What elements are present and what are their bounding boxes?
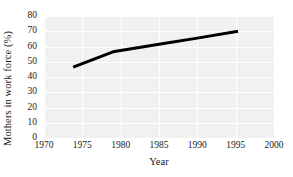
y-axis-tick-label: 70 xyxy=(28,27,38,37)
y-axis-tick-label: 20 xyxy=(28,103,38,113)
x-axis-tick-label: 1995 xyxy=(226,140,245,151)
plot-area xyxy=(44,16,274,138)
y-axis-tick-label: 10 xyxy=(28,118,38,128)
data-series-line xyxy=(44,16,274,138)
line-series-mothers-in-work-force xyxy=(73,31,238,67)
chart-figure: Mothers in work force (%) 01020304050607… xyxy=(0,0,293,177)
y-axis-tick-label: 80 xyxy=(28,11,38,21)
x-axis-tick-labels: 1970197519801985199019952000 xyxy=(0,140,293,153)
y-axis-tick-label: 30 xyxy=(28,88,38,98)
y-axis-tick-label: 40 xyxy=(28,72,38,82)
x-axis-tick-label: 2000 xyxy=(265,140,284,151)
x-axis-tick-label: 1985 xyxy=(150,140,169,151)
x-axis-tick-label: 1990 xyxy=(188,140,207,151)
x-axis-tick-label: 1980 xyxy=(111,140,130,151)
y-axis-tick-label: 60 xyxy=(28,42,38,52)
x-axis-tick-label: 1975 xyxy=(73,140,92,151)
x-axis-label: Year xyxy=(44,156,274,167)
y-axis-tick-label: 50 xyxy=(28,57,38,67)
x-axis-tick-label: 1970 xyxy=(35,140,54,151)
